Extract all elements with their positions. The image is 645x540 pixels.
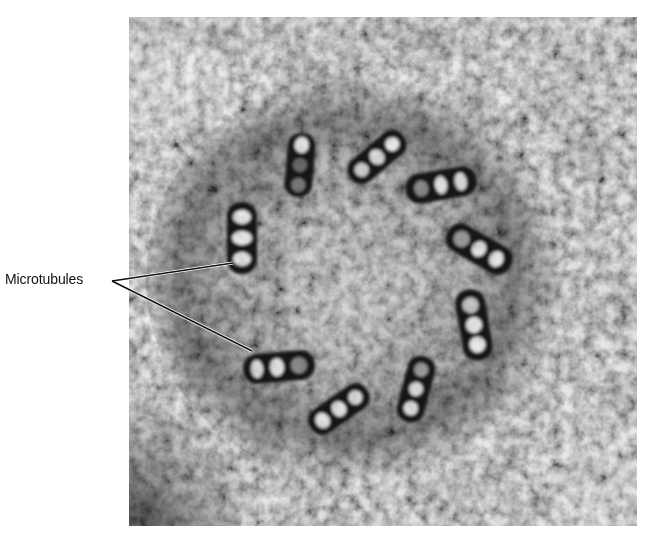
microtubules-label: Microtubules (5, 271, 83, 287)
centriole-micrograph (129, 17, 637, 526)
figure: Microtubules (0, 0, 645, 540)
